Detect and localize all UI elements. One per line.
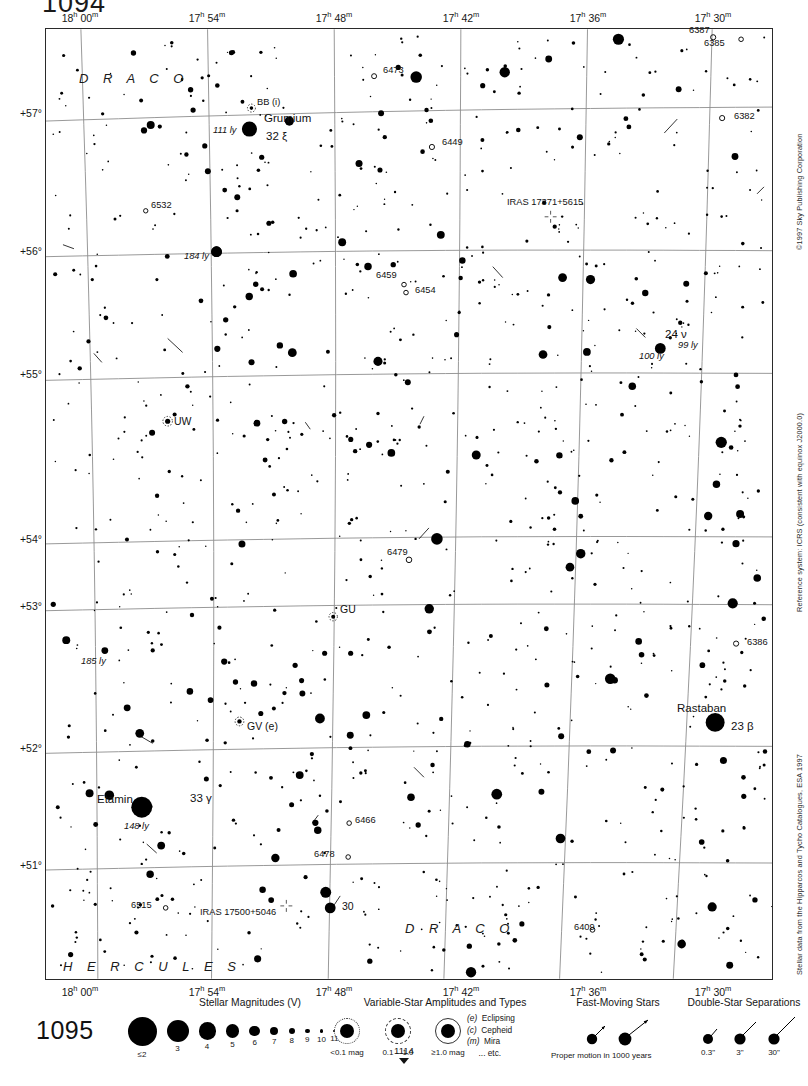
star bbox=[213, 643, 215, 645]
star bbox=[627, 553, 628, 554]
star bbox=[573, 449, 575, 451]
star bbox=[238, 185, 240, 187]
star bbox=[259, 155, 264, 160]
star bbox=[426, 122, 428, 124]
star bbox=[97, 560, 99, 562]
star bbox=[652, 474, 654, 476]
star bbox=[753, 574, 761, 582]
star bbox=[259, 51, 262, 54]
star bbox=[117, 437, 119, 439]
star bbox=[51, 602, 56, 607]
star bbox=[660, 788, 664, 792]
page-number-bottom: 1095 bbox=[36, 1016, 94, 1045]
star bbox=[160, 831, 162, 833]
star bbox=[89, 454, 92, 457]
star bbox=[439, 922, 441, 924]
star bbox=[313, 780, 315, 782]
star bbox=[442, 948, 445, 951]
deep-sky-marker bbox=[734, 641, 739, 646]
variable-star-markers bbox=[163, 104, 338, 726]
star bbox=[418, 53, 422, 57]
star bbox=[74, 941, 76, 943]
star bbox=[299, 691, 305, 697]
star bbox=[135, 766, 138, 769]
star bbox=[141, 439, 143, 441]
bright-star-extra-9 bbox=[708, 902, 717, 911]
star bbox=[323, 385, 325, 387]
star bbox=[83, 900, 84, 901]
star bbox=[719, 473, 721, 475]
star bbox=[173, 956, 177, 960]
star bbox=[563, 440, 564, 441]
star bbox=[399, 439, 401, 441]
star bbox=[736, 171, 738, 173]
star bbox=[638, 108, 641, 111]
star bbox=[207, 74, 210, 77]
variable-amplitude-dot-2 bbox=[441, 1024, 455, 1038]
variable-amplitude-dot-0 bbox=[340, 1024, 354, 1038]
star bbox=[223, 317, 228, 322]
sky-chart[interactable]: 638763856473BB (i)6382Grumium111 ly32 ξ6… bbox=[45, 28, 773, 980]
star bbox=[609, 458, 613, 462]
star bbox=[370, 96, 372, 98]
star bbox=[75, 469, 77, 471]
star bbox=[627, 706, 629, 708]
star bbox=[286, 489, 289, 492]
star bbox=[400, 950, 401, 951]
star bbox=[273, 609, 276, 612]
star bbox=[202, 143, 207, 148]
star bbox=[369, 734, 371, 736]
star bbox=[68, 403, 70, 405]
star bbox=[177, 565, 180, 568]
star bbox=[432, 732, 434, 734]
star bbox=[530, 740, 532, 742]
star bbox=[282, 419, 287, 424]
star bbox=[355, 517, 358, 520]
star bbox=[595, 265, 598, 268]
star bbox=[209, 395, 211, 397]
star bbox=[683, 817, 685, 819]
star bbox=[482, 933, 484, 935]
star bbox=[454, 332, 459, 337]
bright-star-33-γ bbox=[131, 797, 152, 818]
star bbox=[218, 365, 220, 367]
star bbox=[324, 678, 327, 681]
star bbox=[693, 89, 694, 90]
star bbox=[497, 942, 501, 946]
star bbox=[304, 875, 308, 879]
dec-gridline-1 bbox=[46, 250, 772, 257]
star bbox=[753, 787, 756, 790]
star bbox=[387, 645, 391, 649]
star bbox=[724, 668, 726, 670]
star bbox=[430, 107, 432, 109]
iras-markers bbox=[280, 211, 556, 912]
magnitude-label-2: 4 bbox=[193, 1042, 221, 1051]
star bbox=[538, 431, 540, 433]
star bbox=[199, 298, 204, 303]
star bbox=[740, 940, 742, 942]
star bbox=[583, 66, 585, 68]
star bbox=[617, 542, 619, 544]
magnitude-dot-8 bbox=[289, 1028, 295, 1034]
star bbox=[307, 916, 309, 918]
proper-motion-arrow bbox=[305, 422, 310, 429]
deep-sky-marker bbox=[372, 74, 377, 79]
star bbox=[231, 503, 233, 505]
star bbox=[156, 550, 159, 553]
star bbox=[763, 763, 766, 766]
star bbox=[680, 49, 683, 52]
star bbox=[511, 568, 513, 570]
star bbox=[378, 253, 380, 255]
dec-tick-6: +51° bbox=[0, 859, 42, 871]
star bbox=[236, 209, 239, 212]
star bbox=[548, 541, 550, 543]
dec-gridline-0 bbox=[46, 107, 772, 121]
star bbox=[745, 638, 747, 640]
star bbox=[489, 896, 491, 898]
ra-tick-top-4: 17h 36m bbox=[558, 10, 618, 24]
star bbox=[300, 433, 303, 436]
double-separation-label-0: 0.3" bbox=[692, 1048, 724, 1057]
star bbox=[583, 555, 585, 557]
star bbox=[265, 115, 266, 116]
star bbox=[396, 65, 401, 70]
